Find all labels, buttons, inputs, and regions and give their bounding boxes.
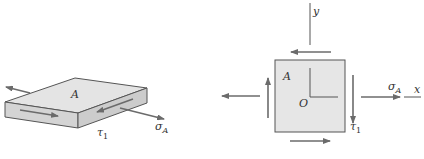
y-axis-label: y (312, 5, 320, 18)
shear-label: τ1 (97, 126, 108, 141)
stress-arrow-left-icon (6, 87, 30, 93)
stress-label: σA (388, 80, 402, 95)
shear-label: τ1 (350, 120, 361, 135)
stress-arrow-right-icon (120, 108, 164, 119)
origin-label: O (299, 97, 308, 110)
face-label: A (70, 88, 79, 101)
block-3d-view: A τ1 σA (5, 78, 169, 141)
stress-label: σA (155, 120, 169, 135)
x-axis-label: x (414, 83, 421, 96)
element-label: A (282, 70, 291, 83)
stress-element-diagram: A τ1 σA y A O x σA τ1 (0, 0, 424, 159)
plane-element-view: y A O x σA τ1 (222, 3, 421, 141)
